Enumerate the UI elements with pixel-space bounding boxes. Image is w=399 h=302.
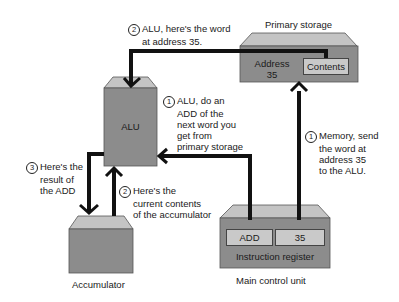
primary-storage-label: Primary storage	[265, 19, 332, 30]
step-number-badge: 1	[305, 131, 317, 143]
instruction-register-label: Instruction register	[220, 251, 330, 262]
step-text: ALU, do an	[177, 95, 225, 106]
step-text: primary storage	[163, 141, 243, 152]
step-text: ALU, here's the word	[142, 23, 230, 34]
step-text: at address 35.	[128, 36, 230, 47]
accumulator-label: Accumulator	[72, 279, 125, 290]
step-text: ADD of the	[163, 108, 243, 119]
step-number-badge: 2	[128, 24, 140, 36]
step-text: Memory, send	[319, 130, 378, 141]
step-text: the ADD	[26, 185, 83, 196]
address-value: 35	[248, 69, 296, 80]
step-text: Here's the	[133, 185, 176, 196]
address-label: Address	[248, 58, 296, 69]
contents-cell: Contents	[303, 58, 349, 75]
alu-label: ALU	[104, 121, 157, 132]
step-number-badge: 3	[26, 162, 38, 174]
step-text: next word you	[163, 119, 243, 130]
main-control-unit-label: Main control unit	[236, 275, 306, 286]
step-alu-here-is-word: 2ALU, here's the word at address 35.	[128, 23, 230, 47]
step-text: to the ALU.	[305, 165, 378, 176]
step-alu-add-instruction: 1ALU, do an ADD of the next word you get…	[163, 95, 243, 152]
step-result-of-add: 3Here's the result of the ADD	[26, 161, 83, 196]
arrow-alu-to-accumulator	[80, 154, 104, 213]
accumulator-block	[69, 216, 133, 273]
step-accumulator-contents: 2Here's the current contents of the accu…	[119, 185, 211, 220]
operand-cell: 35	[275, 229, 325, 246]
step-text: address 35	[305, 154, 378, 165]
step-text: Here's the	[40, 161, 83, 172]
step-text: the word at	[305, 143, 378, 154]
step-memory-send-word: 1Memory, send the word at address 35 to …	[305, 130, 378, 176]
step-text: current contents	[119, 198, 211, 209]
opcode-cell: ADD	[226, 229, 273, 246]
step-text: of the accumulator	[119, 209, 211, 220]
step-text: result of	[26, 174, 83, 185]
step-number-badge: 2	[119, 186, 131, 198]
step-number-badge: 1	[163, 96, 175, 108]
step-text: get from	[163, 130, 243, 141]
